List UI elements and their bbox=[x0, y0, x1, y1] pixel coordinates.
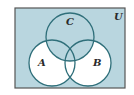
set-b-label: B bbox=[92, 57, 101, 68]
universe-label: U bbox=[114, 11, 124, 22]
venn-diagram: C A B U bbox=[0, 0, 134, 95]
set-a-label: A bbox=[37, 57, 46, 68]
set-c-label: C bbox=[66, 16, 74, 27]
